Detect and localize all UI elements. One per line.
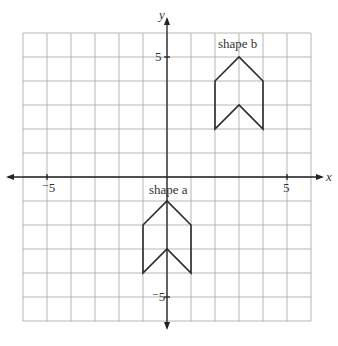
x-axis-left-arrow-icon bbox=[6, 174, 14, 180]
coordinate-plane: x y ⁻5 5 5 ⁻5 shape b shape a bbox=[0, 0, 338, 346]
y-tick-label-pos5: 5 bbox=[155, 49, 162, 64]
y-tick-label-neg5: ⁻5 bbox=[152, 289, 165, 304]
y-axis-up-arrow-icon bbox=[164, 17, 170, 25]
shape-a-label: shape a bbox=[149, 182, 188, 197]
x-axis-label: x bbox=[325, 169, 332, 184]
y-axis-down-arrow-icon bbox=[164, 322, 170, 330]
x-tick-label-pos5: 5 bbox=[283, 180, 290, 195]
shape-b-label: shape b bbox=[218, 36, 257, 51]
x-tick-label-neg5: ⁻5 bbox=[42, 180, 55, 195]
x-axis-right-arrow-icon bbox=[316, 174, 324, 180]
y-axis-label: y bbox=[157, 7, 165, 22]
